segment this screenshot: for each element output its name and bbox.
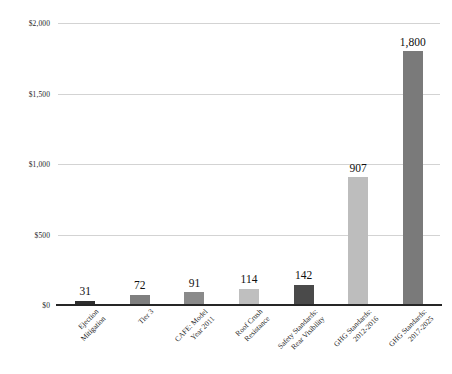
y-axis-tick-label: $1,000 xyxy=(4,160,50,169)
bar-group: 142 xyxy=(276,23,331,305)
plot-area: 3172911141429071,800 xyxy=(58,23,440,305)
bar-group: 114 xyxy=(222,23,277,305)
y-axis-tick-label: $2,000 xyxy=(4,19,50,28)
bar-value-label: 907 xyxy=(350,163,367,175)
bar-value-label: 31 xyxy=(80,286,92,298)
bar-group: 907 xyxy=(331,23,386,305)
x-axis-category-labels: EjectionMitigationTier 3CAFE: ModelYear … xyxy=(58,307,440,374)
bar-value-label: 72 xyxy=(134,280,146,292)
bar-value-label: 142 xyxy=(295,270,312,282)
bar[interactable] xyxy=(403,51,423,305)
bar-group: 1,800 xyxy=(385,23,440,305)
bar[interactable] xyxy=(294,285,314,305)
y-axis-tick-label: $500 xyxy=(4,230,50,239)
bar-chart: $0$500$1,000$1,500$2,000 317291114142907… xyxy=(0,0,452,374)
y-axis-tick-label: $1,500 xyxy=(4,89,50,98)
bar-value-label: 1,800 xyxy=(400,37,426,49)
bar-value-label: 91 xyxy=(189,278,201,290)
bar[interactable] xyxy=(239,289,259,305)
x-axis-baseline xyxy=(56,304,442,306)
y-axis: $0$500$1,000$1,500$2,000 xyxy=(0,23,50,305)
bar-group: 72 xyxy=(113,23,168,305)
bar[interactable] xyxy=(348,177,368,305)
y-axis-tick-label: $0 xyxy=(4,301,50,310)
bar-group: 31 xyxy=(58,23,113,305)
bar-group: 91 xyxy=(167,23,222,305)
bar-value-label: 114 xyxy=(241,274,258,286)
